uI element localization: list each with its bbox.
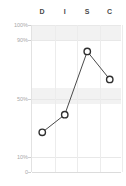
y-axis-tick-90: [28, 40, 31, 41]
data-point-s[interactable]: [84, 48, 90, 54]
data-point-d[interactable]: [39, 129, 45, 135]
y-axis-tick-10: [28, 157, 31, 158]
y-axis-tick-0: [28, 172, 31, 173]
data-point-c[interactable]: [107, 76, 113, 82]
series-layer: [0, 0, 126, 186]
disc-line-chart: DISC 100%90%50%10%0: [0, 0, 126, 186]
y-axis-tick-100: [28, 25, 31, 26]
series-line: [42, 51, 110, 132]
data-point-i[interactable]: [62, 111, 68, 117]
y-axis-tick-50: [28, 99, 31, 100]
